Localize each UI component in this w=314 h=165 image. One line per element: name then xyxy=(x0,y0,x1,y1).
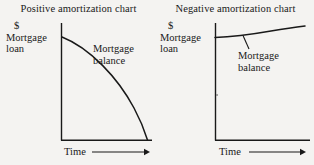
negative-series-label: Mortgage balance xyxy=(238,50,279,73)
series-label-line2: balance xyxy=(93,55,134,67)
time-arrow-head xyxy=(144,149,150,155)
series-leader-line xyxy=(243,36,249,50)
positive-y-axis-label: $ Mortgage loan xyxy=(6,20,47,55)
positive-x-axis-label: Time xyxy=(64,146,86,158)
time-arrow-head xyxy=(300,149,306,155)
dollar-symbol: $ xyxy=(160,20,201,32)
positive-series-label: Mortgage balance xyxy=(93,43,134,66)
dollar-symbol: $ xyxy=(6,20,47,32)
y-axis-label-line2: loan xyxy=(6,43,47,55)
series-label-line2: balance xyxy=(238,62,279,74)
negative-amortization-panel: Negative amortization chart $ Mortgage l… xyxy=(157,0,314,165)
series-label-line1: Mortgage xyxy=(238,50,279,62)
y-axis-label-line2: loan xyxy=(160,43,201,55)
positive-amortization-panel: Positive amortization chart $ Mortgage l… xyxy=(0,0,157,165)
mortgage-balance-curve xyxy=(215,26,305,38)
negative-x-axis-label: Time xyxy=(219,146,241,158)
y-axis-label-line1: Mortgage xyxy=(6,32,47,44)
y-axis-label-line1: Mortgage xyxy=(160,32,201,44)
scan-speck xyxy=(216,94,218,96)
amortization-figure: Positive amortization chart $ Mortgage l… xyxy=(0,0,314,165)
series-label-line1: Mortgage xyxy=(93,43,134,55)
negative-y-axis-label: $ Mortgage loan xyxy=(160,20,201,55)
